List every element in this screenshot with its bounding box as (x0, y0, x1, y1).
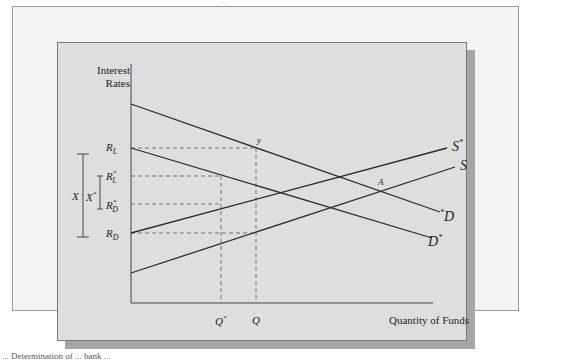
label-Dstar: D* (428, 234, 442, 249)
label-RLstar: R*L (106, 170, 117, 185)
label-point-A: A (378, 178, 384, 187)
label-Q: Q (252, 315, 260, 326)
supply-curve-Sstar (131, 148, 447, 233)
label-Qstar: Q* (215, 315, 226, 327)
label-X: X (72, 191, 79, 202)
label-starD: *D (440, 209, 454, 224)
label-Sstar: S* (452, 139, 463, 154)
label-RDstar: R*D (106, 199, 118, 214)
label-S: S (460, 159, 467, 173)
caption-fragment: ... Determination of ... bank ... (2, 351, 110, 360)
y-axis-label: Interest Rates (90, 65, 130, 89)
label-RL: RL (106, 142, 117, 156)
label-Xstar: X* (86, 191, 96, 203)
demand-curve-starD (131, 104, 440, 212)
label-point-y: y (257, 136, 261, 145)
label-RD: RD (106, 228, 119, 242)
chart-svg (0, 0, 568, 360)
x-axis-label: Quantity of Funds (389, 315, 469, 326)
